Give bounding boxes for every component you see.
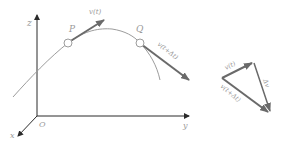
- x-axis: [18, 116, 37, 136]
- velocity-label-p: v(t): [89, 8, 101, 16]
- origin-label: O: [39, 120, 46, 129]
- velocity-diagram: z y x O P Q v(t) v(t+Δt) v(t) Δv v(t+Δt): [0, 0, 286, 154]
- triangle-v-t-label: v(t): [223, 59, 237, 71]
- point-q-marker: [136, 39, 144, 47]
- x-axis-label: x: [10, 131, 15, 140]
- point-p-label: P: [68, 24, 76, 34]
- point-p-marker: [64, 39, 72, 47]
- triangle-v-t-dt-label: v(t+Δt): [219, 82, 243, 104]
- y-axis-label: y: [182, 121, 188, 130]
- coordinate-axes: [18, 15, 189, 136]
- point-q-label: Q: [136, 24, 144, 34]
- z-axis-label: z: [26, 18, 32, 28]
